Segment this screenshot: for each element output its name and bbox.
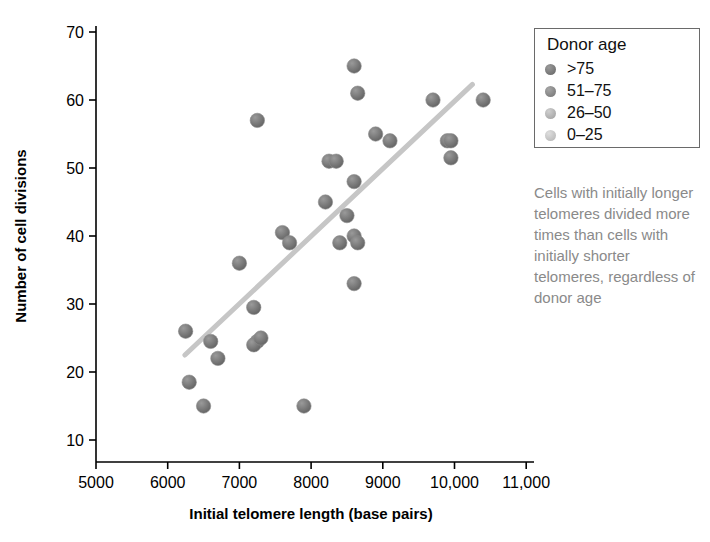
svg-text:50: 50	[66, 160, 84, 177]
legend-item-label: 26–50	[567, 104, 612, 122]
legend-marker-icon	[545, 130, 556, 141]
data-point	[476, 93, 490, 107]
data-point	[444, 151, 458, 165]
data-point	[329, 154, 343, 168]
svg-text:40: 40	[66, 228, 84, 245]
legend-item-26-50: 26–50	[545, 102, 699, 124]
data-point	[347, 276, 361, 290]
data-point	[232, 256, 246, 270]
svg-text:7000: 7000	[222, 474, 258, 491]
legend-marker-icon	[545, 108, 556, 119]
svg-text:5000: 5000	[78, 474, 114, 491]
legend-marker-icon	[545, 86, 556, 97]
data-point	[254, 331, 268, 345]
data-point	[250, 113, 264, 127]
legend-item-label: >75	[567, 60, 594, 78]
data-point	[426, 93, 440, 107]
data-point	[383, 134, 397, 148]
x-axis-title: Initial telomere length (base pairs)	[189, 505, 432, 522]
data-point	[333, 236, 347, 250]
legend: Donor age >75 51–75 26–50 0–25	[534, 28, 700, 148]
data-point	[347, 59, 361, 73]
legend-item-label: 51–75	[567, 82, 612, 100]
data-point	[247, 300, 261, 314]
data-point	[368, 127, 382, 141]
data-point	[351, 86, 365, 100]
data-point	[444, 134, 458, 148]
svg-text:11,000: 11,000	[502, 474, 550, 491]
svg-text:60: 60	[66, 92, 84, 109]
scatter-plot-figure: 102030405060705000600070008000900010,000…	[0, 0, 710, 542]
trend-line	[185, 84, 473, 355]
y-axis-title: Number of cell divisions	[12, 149, 29, 322]
data-point	[211, 351, 225, 365]
svg-text:9000: 9000	[365, 474, 401, 491]
legend-item-0-25: 0–25	[545, 124, 699, 146]
data-point	[282, 236, 296, 250]
svg-text:20: 20	[66, 364, 84, 381]
chart-annotation: Cells with initially longer telomeres di…	[534, 182, 704, 308]
svg-text:10: 10	[66, 432, 84, 449]
data-point	[178, 324, 192, 338]
legend-item-over-75: >75	[545, 58, 699, 80]
data-point	[196, 399, 210, 413]
svg-text:70: 70	[66, 24, 84, 41]
legend-marker-icon	[545, 64, 556, 75]
data-point	[340, 208, 354, 222]
data-point	[204, 334, 218, 348]
tick-labels: 102030405060705000600070008000900010,000…	[66, 24, 550, 491]
svg-text:6000: 6000	[150, 474, 186, 491]
data-point	[351, 236, 365, 250]
data-point	[318, 195, 332, 209]
svg-text:30: 30	[66, 296, 84, 313]
data-point	[347, 174, 361, 188]
legend-item-label: 0–25	[567, 126, 603, 144]
legend-item-51-75: 51–75	[545, 80, 699, 102]
data-point	[182, 375, 196, 389]
legend-title: Donor age	[547, 35, 699, 54]
data-point	[297, 399, 311, 413]
svg-text:8000: 8000	[293, 474, 329, 491]
svg-text:10,000: 10,000	[430, 474, 479, 491]
